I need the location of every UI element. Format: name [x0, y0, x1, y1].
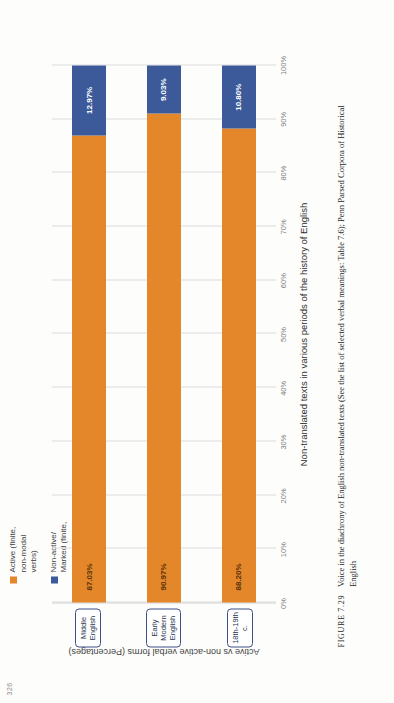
x-axis-tick-labels: 0%10%20%30%40%50%60%70%80%90%100%: [276, 65, 296, 603]
x-axis-tick: 60%: [279, 273, 288, 288]
category-label-early-modern-english: Early Modern English: [146, 608, 181, 647]
legend-item-active: Active (finite, non-modal verbs): [8, 521, 40, 583]
bar-value-active: 90.97%: [159, 563, 168, 590]
bar-series-container: 87.03% 12.97% 90.97% 9.03%: [52, 65, 276, 602]
x-axis-tick: 90%: [279, 111, 288, 126]
x-axis-tick: 20%: [279, 488, 288, 503]
legend-swatch-active-icon: [10, 576, 17, 583]
scanned-page: 326 Active (finite, non-modal verbs) Non…: [0, 0, 394, 703]
bar-segment-active: 87.03%: [72, 135, 106, 602]
x-axis-tick: 10%: [279, 542, 288, 557]
x-axis-tick: 100%: [279, 55, 288, 74]
bar-segment-active: 88.20%: [222, 128, 256, 602]
x-axis-tick: 40%: [279, 380, 288, 395]
category-label-18th-19th-c: 18th-19th c.: [227, 608, 253, 647]
x-axis-title: Non-translated texts in various periods …: [298, 65, 309, 603]
bar-segment-active: 90.97%: [147, 114, 181, 603]
legend-label-active: Active (finite, non-modal verbs): [8, 526, 40, 572]
category-label-middle-english: Middle English: [75, 608, 101, 647]
y-axis-title: Active vs non-active verbal forms (Perce…: [68, 646, 259, 656]
x-axis-tick: 0%: [279, 598, 288, 609]
bar-value-nonactive: 10.80%: [234, 83, 243, 110]
stacked-bar-chart: Active vs non-active verbal forms (Perce…: [52, 57, 320, 647]
category-label-column: Middle English Early Modern English 18th…: [52, 605, 276, 647]
table-row: 87.03% 12.97%: [72, 65, 106, 602]
x-axis-tick: 50%: [279, 326, 288, 341]
table-row: 90.97% 9.03%: [147, 65, 181, 602]
bar-segment-nonactive: 10.80%: [222, 65, 256, 128]
x-axis-tick: 80%: [279, 165, 288, 180]
figure-number: FIGURE 7.29: [336, 594, 346, 647]
bar-value-nonactive: 9.03%: [159, 78, 168, 101]
bar-value-nonactive: 12.97%: [85, 86, 94, 113]
x-axis-tick: 70%: [279, 219, 288, 234]
bar-segment-nonactive: 9.03%: [147, 65, 181, 113]
table-row: 88.20% 10.80%: [222, 65, 256, 602]
x-axis-tick: 30%: [279, 434, 288, 449]
page-number: 326: [6, 682, 13, 695]
bar-segment-nonactive: 12.97%: [72, 65, 106, 135]
bar-value-active: 88.20%: [234, 563, 243, 590]
bar-value-active: 87.03%: [85, 563, 94, 590]
plot-area: 87.03% 12.97% 90.97% 9.03%: [52, 65, 276, 603]
figure-caption: FIGURE 7.29 Voice in the diachrony of En…: [336, 87, 359, 647]
figure-caption-text: Voice in the diachrony of English non-tr…: [336, 87, 359, 586]
